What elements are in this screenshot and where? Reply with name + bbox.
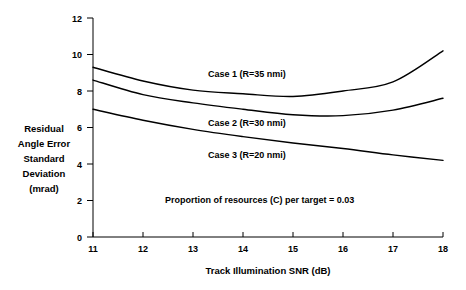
series-label-case-3: Case 3 (R=20 nmi) <box>208 150 286 160</box>
x-tick-label: 17 <box>388 244 398 254</box>
y-axis-title-line: Angle Error <box>18 138 71 149</box>
y-axis-title-line: Standard <box>23 153 64 164</box>
y-tick-label: 4 <box>77 160 82 170</box>
chart-figure: 12 10 8 6 4 2 0 11 12 13 14 15 16 <box>0 0 466 290</box>
y-axis-title-line: (mrad) <box>29 183 59 194</box>
y-axis-title-line: Residual <box>24 123 64 134</box>
y-tick-label: 2 <box>77 196 82 206</box>
x-tick-label: 11 <box>88 244 98 254</box>
x-tick-label: 13 <box>188 244 198 254</box>
x-axis-title: Track Illumination SNR (dB) <box>205 265 330 276</box>
resources-annotation: Proportion of resources (C) per target =… <box>165 195 354 205</box>
y-tick-label: 8 <box>77 87 82 97</box>
x-tick-label: 14 <box>238 244 248 254</box>
series-label-case-1: Case 1 (R=35 nmi) <box>208 69 286 79</box>
y-tick-label: 6 <box>77 123 82 133</box>
series-label-case-2: Case 2 (R=30 nmi) <box>208 118 286 128</box>
x-tick-label: 12 <box>138 244 148 254</box>
y-tick-label: 12 <box>72 14 82 24</box>
y-tick-label: 0 <box>77 233 82 243</box>
x-tick-label: 18 <box>438 244 448 254</box>
y-tick-label: 10 <box>72 50 82 60</box>
line-chart: 12 10 8 6 4 2 0 11 12 13 14 15 16 <box>0 0 466 290</box>
x-tick-label: 16 <box>338 244 348 254</box>
y-axis-title-line: Deviation <box>23 168 66 179</box>
x-tick-label: 15 <box>288 244 298 254</box>
